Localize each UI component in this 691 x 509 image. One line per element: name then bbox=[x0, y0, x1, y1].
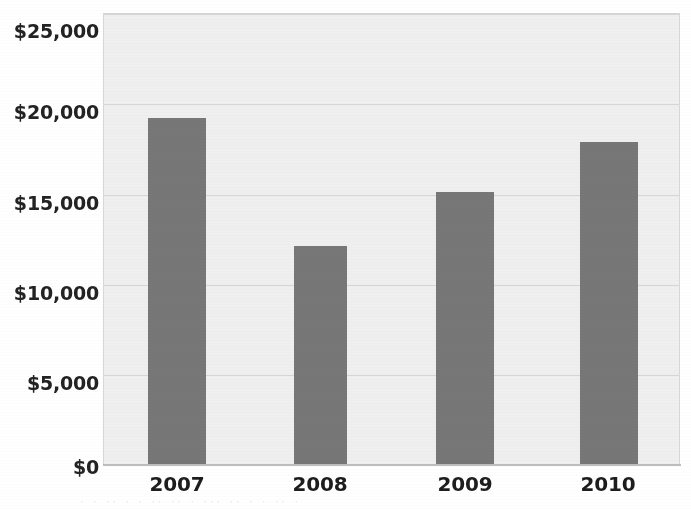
y-tick-label-25000: $25,000 bbox=[3, 22, 99, 41]
gridline-25000 bbox=[104, 14, 679, 15]
plot-area bbox=[103, 13, 680, 465]
x-tick-label-2008: 2008 bbox=[262, 474, 378, 494]
y-tick-label-15000: $15,000 bbox=[3, 194, 99, 213]
gridline-20000 bbox=[104, 104, 679, 105]
bar-2007 bbox=[148, 118, 206, 464]
bar-2010 bbox=[580, 142, 638, 464]
bar-2009 bbox=[436, 192, 494, 464]
x-tick-label-2009: 2009 bbox=[407, 474, 523, 494]
y-tick-label-10000: $10,000 bbox=[3, 284, 99, 303]
y-tick-label-5000: $5,000 bbox=[3, 374, 99, 393]
y-axis-labels: $25,000 $20,000 $15,000 $10,000 $5,000 $… bbox=[0, 0, 99, 509]
bar-chart: $25,000 $20,000 $15,000 $10,000 $5,000 $… bbox=[0, 0, 691, 509]
y-tick-label-20000: $20,000 bbox=[3, 103, 99, 122]
bar-2008 bbox=[294, 246, 347, 464]
x-axis-line bbox=[103, 464, 681, 466]
x-tick-label-2010: 2010 bbox=[550, 474, 666, 494]
x-tick-label-2007: 2007 bbox=[119, 474, 235, 494]
y-tick-label-0: $0 bbox=[3, 458, 99, 477]
scan-bleed-artifact: · · ·· · · ·· ·· · ··· ·· · · ·· · bbox=[80, 497, 640, 506]
